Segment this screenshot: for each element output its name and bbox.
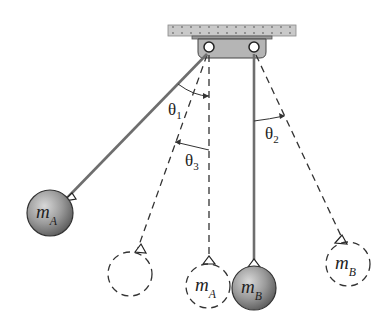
mass-b-dashed-label: mB xyxy=(335,253,356,277)
theta1-label: θ1 xyxy=(168,101,182,121)
ceiling xyxy=(168,25,296,36)
mass-a-theta3-position xyxy=(108,244,152,296)
mass-a-dashed-label: mA xyxy=(195,275,216,299)
string-mb-swung xyxy=(256,55,342,238)
pivot-b-icon xyxy=(249,42,259,52)
mass-a-solid-label: mA xyxy=(36,202,57,226)
pivot-a-icon xyxy=(204,42,214,52)
theta2-arc xyxy=(254,116,284,121)
string-ma-solid xyxy=(67,54,207,198)
theta3-label: θ3 xyxy=(185,152,199,172)
bracket xyxy=(192,36,272,58)
mass-b-solid-label: mB xyxy=(241,277,262,301)
theta2-label: θ2 xyxy=(265,125,279,145)
